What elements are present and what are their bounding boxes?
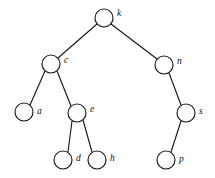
tree-node-circle-c[interactable] bbox=[42, 55, 60, 73]
tree-node-circle-h[interactable] bbox=[88, 151, 106, 169]
tree-node-circle-d[interactable] bbox=[54, 151, 72, 169]
tree-node-circle-p[interactable] bbox=[157, 151, 175, 169]
tree-node-label-a: a bbox=[37, 106, 42, 116]
tree-node-label-h: h bbox=[110, 153, 115, 163]
tree-node-label-s: s bbox=[199, 106, 203, 116]
tree-node-label-n: n bbox=[177, 56, 182, 66]
tree-node-circle-n[interactable] bbox=[155, 56, 173, 74]
tree-node-circle-a[interactable] bbox=[15, 103, 33, 121]
binary-tree-diagram: kcnaesdhp bbox=[0, 0, 215, 178]
tree-node-circle-s[interactable] bbox=[177, 104, 195, 122]
tree-node-label-d: d bbox=[76, 153, 81, 163]
tree-node-circle-k[interactable] bbox=[95, 9, 113, 27]
tree-node-circle-e[interactable] bbox=[68, 104, 86, 122]
tree-node-label-p: p bbox=[178, 154, 184, 164]
tree-node-label-e: e bbox=[90, 104, 94, 114]
